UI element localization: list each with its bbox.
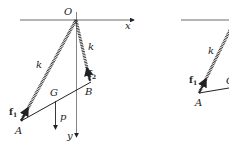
force-f1-arrow-right <box>199 79 206 93</box>
point-b-label: B <box>84 86 92 97</box>
point-a-label-right: A <box>194 97 202 108</box>
left-diagram: O x y k k A B G p f1 f2 <box>9 6 134 141</box>
bar-right <box>199 88 229 93</box>
spring-k-label-right: k <box>208 45 214 56</box>
right-diagram: k A f1 G <box>181 20 229 108</box>
weight-p-label: p <box>60 111 67 122</box>
spring-left-k-label: k <box>36 59 42 70</box>
spring-right-k-label: k <box>88 41 94 52</box>
center-g-label: G <box>50 87 58 98</box>
origin-label: O <box>64 6 72 17</box>
force-f1-label-right: f1 <box>189 75 197 86</box>
x-axis-label: x <box>125 20 131 31</box>
partial-g-label-right: G <box>226 75 229 86</box>
mechanics-diagram: O x y k k A B G p f1 f2 k A f1 G <box>0 0 229 143</box>
force-f1-label: f1 <box>9 107 17 118</box>
force-f2-label: f2 <box>88 69 96 80</box>
y-axis-label: y <box>66 130 73 141</box>
point-a-label: A <box>14 125 22 136</box>
